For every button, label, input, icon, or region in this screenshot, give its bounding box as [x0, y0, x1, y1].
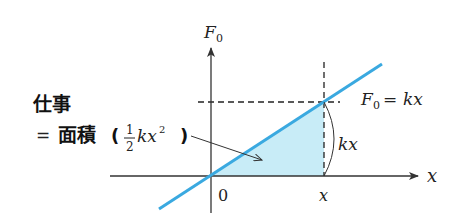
annotation-fraction-numerator: 1: [126, 123, 134, 137]
x-tick-label: x: [319, 186, 328, 205]
y-axis-label-subscript: 0: [216, 32, 223, 45]
work-area-diagram: F 0 x 0 x F 0 = kx kx 仕事 = 面積 ( 1 2 kx 2…: [0, 0, 467, 223]
annotation-equals: =: [36, 125, 50, 145]
annotation-paren-close: ): [180, 125, 188, 146]
line-label-lhs: F: [360, 89, 374, 109]
annotation-paren-open: (: [111, 125, 119, 146]
height-label: kx: [338, 134, 358, 154]
annotation-expression: kx: [137, 126, 157, 146]
line-label-rhs: kx: [403, 89, 423, 109]
origin-label: 0: [218, 186, 228, 205]
annotation-area-label: 面積: [58, 124, 96, 146]
x-axis-label: x: [427, 165, 437, 186]
annotation-fraction-denominator: 2: [126, 140, 134, 154]
annotation-exponent: 2: [159, 124, 165, 135]
y-axis-label: F 0: [203, 22, 223, 45]
line-equation-label: F 0 = kx: [360, 89, 423, 112]
line-label-equals: =: [383, 89, 397, 109]
line-label-subscript: 0: [373, 99, 380, 112]
annotation-work-label: 仕事: [32, 93, 71, 115]
work-annotation: 仕事 = 面積 ( 1 2 kx 2 ): [32, 93, 188, 154]
height-arc: [324, 102, 334, 176]
y-axis-label-main: F: [203, 22, 217, 42]
